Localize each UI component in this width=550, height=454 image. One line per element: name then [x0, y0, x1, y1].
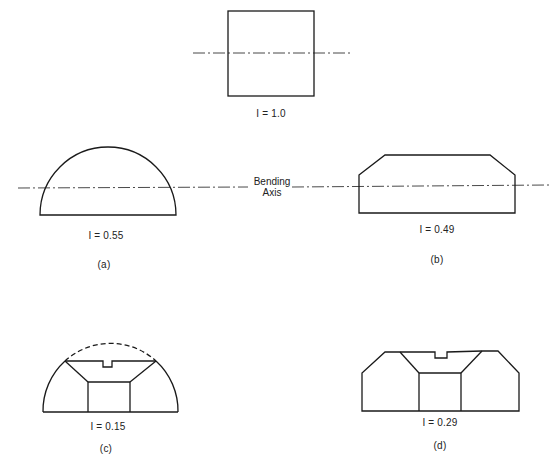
bending-axis-label-line2: Axis: [254, 187, 291, 198]
semicircle-section-a: [40, 147, 176, 215]
bending-axis-left: [18, 187, 248, 188]
bending-axis-label-line1: Bending: [254, 176, 291, 187]
hollow-semicircle-section-c: [43, 343, 178, 412]
square-section: [228, 11, 314, 96]
bending-axis-label: Bending Axis: [254, 176, 291, 198]
inertia-label-a: I = 0.55: [88, 230, 123, 241]
hollow-chamfered-section-d: [362, 351, 519, 411]
caption-a: (a): [98, 259, 111, 270]
bending-axis-right: [292, 185, 550, 187]
inertia-label-c: I = 0.15: [90, 421, 125, 432]
inertia-label-d: I = 0.29: [422, 417, 457, 428]
caption-c: (c): [100, 443, 112, 454]
caption-b: (b): [431, 254, 444, 265]
caption-d: (d): [434, 440, 447, 451]
chamfered-section-b: [359, 155, 515, 213]
inertia-label-reference: I = 1.0: [256, 108, 285, 119]
inertia-label-b: I = 0.49: [419, 224, 454, 235]
